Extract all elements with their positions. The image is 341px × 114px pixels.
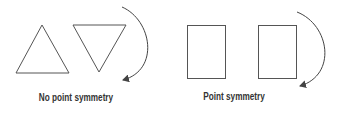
triangle-shape — [16, 25, 69, 73]
caption-no-point-symmetry: No point symmetry — [35, 92, 117, 103]
panel-point-symmetry — [188, 12, 325, 86]
rotated-rectangle-shape — [259, 26, 297, 79]
rotation-arrow-icon — [297, 12, 325, 86]
panel-no-point-symmetry — [16, 7, 148, 80]
inverted-triangle-shape — [73, 25, 126, 72]
rectangle-shape — [188, 26, 226, 79]
rotation-arrow-icon — [122, 7, 148, 80]
caption-point-symmetry: Point symmetry — [193, 91, 275, 102]
